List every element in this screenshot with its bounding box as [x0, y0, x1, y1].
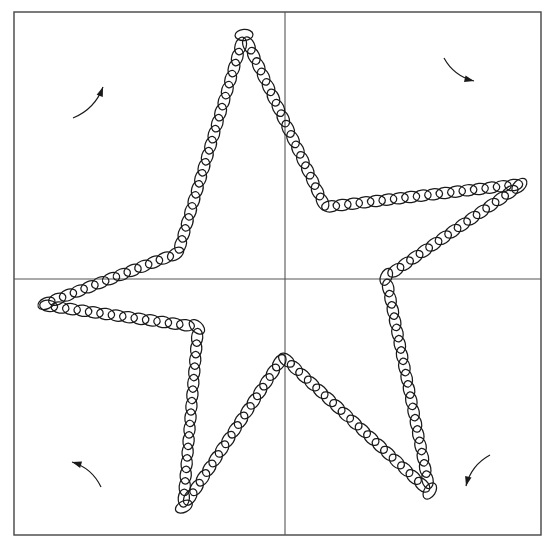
- ellipse-chain-star-figure: [0, 0, 558, 546]
- figure-background: [0, 0, 558, 546]
- figure-root: [0, 0, 558, 546]
